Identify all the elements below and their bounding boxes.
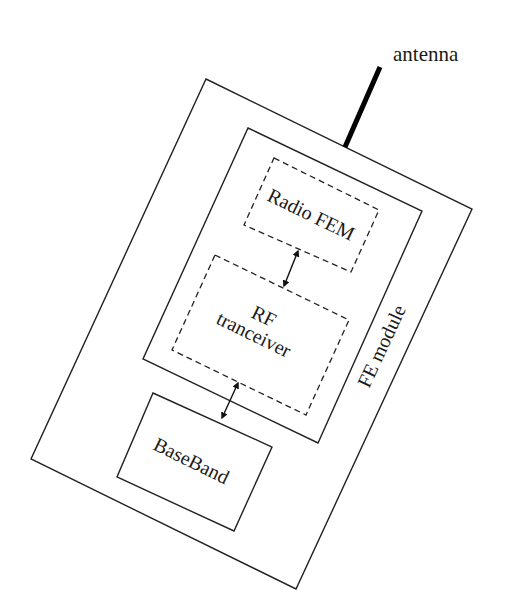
antenna-label: antenna [393,42,459,66]
radio-fem-label: Radio FEM [264,184,358,245]
antenna-icon [345,67,380,147]
arrow-transceiver-baseband [222,383,238,418]
arrow-fem-transceiver [284,251,298,286]
fe-module-diagram: antenna Radio FEM RF tranceiver BaseBand… [0,0,506,616]
rf-chip-outline [143,128,422,443]
baseband-label: BaseBand [150,433,233,488]
